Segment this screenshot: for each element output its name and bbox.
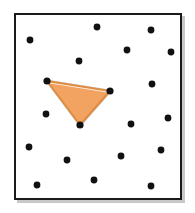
- point-marker: [149, 81, 156, 88]
- point-marker: [94, 24, 101, 31]
- point-marker: [43, 111, 50, 118]
- point-marker: [91, 177, 98, 184]
- point-marker: [26, 144, 33, 151]
- figure-root: [0, 0, 195, 213]
- point-set-diagram: [0, 0, 195, 213]
- point-marker: [128, 121, 135, 128]
- point-marker-triangle-vertex: [76, 121, 83, 128]
- point-marker: [118, 153, 125, 160]
- point-marker-triangle-vertex: [106, 87, 113, 94]
- point-marker: [158, 147, 165, 154]
- point-marker: [124, 47, 131, 54]
- point-marker: [76, 58, 83, 65]
- point-marker: [64, 157, 71, 164]
- point-marker-triangle-vertex: [43, 77, 50, 84]
- point-marker: [27, 37, 34, 44]
- point-marker: [165, 115, 172, 122]
- point-marker: [34, 182, 41, 189]
- point-marker: [148, 27, 155, 34]
- point-marker: [148, 183, 155, 190]
- point-marker: [168, 49, 175, 56]
